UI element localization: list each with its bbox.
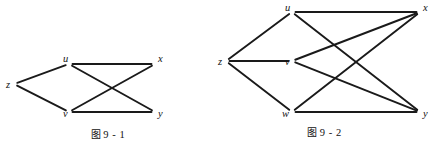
vertex-label-z: z bbox=[217, 56, 222, 67]
caption-cjk-label: 图 bbox=[307, 127, 318, 138]
figure-9-2-caption: 图9 - 2 bbox=[216, 124, 433, 139]
graph-edge-v-y bbox=[295, 62, 416, 110]
graph-diagram-9-1: zuvxy bbox=[0, 0, 216, 126]
graph-edge-z-w bbox=[229, 63, 289, 110]
graph-diagram-9-2: zuvwxy bbox=[216, 0, 433, 126]
caption-number-label: 9 - 1 bbox=[101, 129, 125, 140]
vertex-label-z: z bbox=[5, 79, 10, 90]
figure-9-2-panel: zuvwxy 图9 - 2 bbox=[216, 0, 433, 151]
vertex-label-w: w bbox=[282, 108, 289, 119]
vertex-label-u: u bbox=[63, 53, 68, 64]
vertex-label-x: x bbox=[157, 53, 163, 64]
figure-9-1-panel: zuvxy 图9 - 1 bbox=[0, 0, 216, 151]
figure-9-1-caption: 图9 - 1 bbox=[0, 126, 216, 141]
vertex-label-y: y bbox=[157, 108, 163, 119]
graph-edge-z-v bbox=[17, 86, 66, 111]
caption-cjk-label: 图 bbox=[91, 129, 102, 140]
graph-edge-z-u bbox=[17, 65, 65, 83]
figure-board: zuvxy 图9 - 1 zuvwxy 图9 - 2 bbox=[0, 0, 433, 151]
graph-edge-z-u bbox=[229, 14, 289, 59]
vertex-label-v: v bbox=[285, 56, 290, 67]
graph-edge-v-x bbox=[295, 13, 416, 59]
vertex-label-x: x bbox=[422, 2, 428, 13]
vertex-label-u: u bbox=[285, 2, 290, 13]
vertex-label-v: v bbox=[63, 108, 68, 119]
caption-number-label: 9 - 2 bbox=[318, 127, 342, 138]
vertex-label-y: y bbox=[422, 108, 428, 119]
